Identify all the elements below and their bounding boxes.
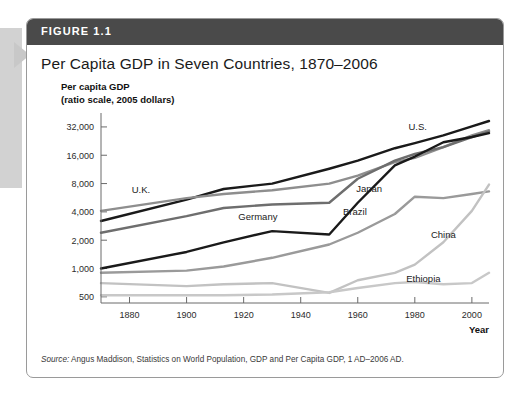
- figure-card: FIGURE 1.1 Per Capita GDP in Seven Count…: [26, 18, 504, 378]
- x-tick-label: 1940: [291, 310, 311, 320]
- y-tick-label: 32,000: [66, 122, 94, 132]
- y-tick-label: 16,000: [66, 151, 94, 161]
- x-tick-label: 1980: [405, 310, 425, 320]
- x-tick-label: 1960: [348, 310, 368, 320]
- y-axis-caption-line1: Per capita GDP: [61, 81, 175, 94]
- x-axis-title: Year: [469, 324, 489, 335]
- y-tick-label: 500: [79, 292, 94, 302]
- source-note-text: Angus Maddison, Statistics on World Popu…: [69, 355, 404, 364]
- series-line-japan: [101, 133, 489, 268]
- series-lines: [101, 121, 489, 295]
- series-label-china: China: [431, 229, 457, 240]
- x-axis-ticks: 1880190019201940196019802000: [120, 297, 482, 320]
- y-tick-label: 1,000: [71, 264, 94, 274]
- y-axis-caption: Per capita GDP (ratio scale, 2005 dollar…: [61, 81, 175, 106]
- series-line-uk: [101, 130, 489, 211]
- line-chart: 5001,0002,0004,0008,00016,00032,000 1880…: [27, 105, 504, 345]
- figure-title: Per Capita GDP in Seven Countries, 1870–…: [41, 55, 378, 73]
- x-tick-label: 1900: [177, 310, 197, 320]
- series-label-us: U.S.: [408, 121, 426, 132]
- x-tick-label: 2000: [462, 310, 482, 320]
- series-label-ethiopia: Ethiopia: [406, 273, 441, 284]
- series-line-germany: [101, 132, 489, 233]
- series-line-us: [101, 121, 489, 221]
- series-label-brazil: Brazil: [343, 206, 367, 217]
- figure-label: FIGURE 1.1: [41, 25, 112, 37]
- series-label-germany: Germany: [238, 211, 277, 222]
- y-tick-label: 2,000: [71, 236, 94, 246]
- chart-area: 5001,0002,0004,0008,00016,00032,000 1880…: [27, 105, 504, 345]
- y-tick-label: 4,000: [71, 207, 94, 217]
- series-label-japan: Japan: [356, 183, 382, 194]
- source-note-lead: Source:: [41, 355, 69, 364]
- series-label-uk: U.K.: [132, 184, 150, 195]
- x-tick-label: 1880: [120, 310, 140, 320]
- x-tick-label: 1920: [234, 310, 254, 320]
- source-note: Source: Angus Maddison, Statistics on Wo…: [41, 355, 404, 364]
- y-tick-label: 8,000: [71, 179, 94, 189]
